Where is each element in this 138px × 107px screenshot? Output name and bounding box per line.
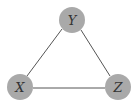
node-x: X: [7, 74, 33, 100]
edge-y-x: [27, 29, 62, 76]
node-z-label: Z: [112, 80, 123, 95]
edge-y-z: [81, 30, 110, 76]
node-x-label: X: [14, 80, 25, 95]
graph-diagram: Y X Z: [0, 0, 138, 107]
node-y: Y: [59, 7, 85, 33]
node-z: Z: [105, 74, 131, 100]
node-y-label: Y: [68, 13, 78, 28]
